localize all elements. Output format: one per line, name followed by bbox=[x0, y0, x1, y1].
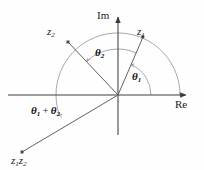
label-theta-sum: θ1 + θ2 bbox=[31, 105, 60, 116]
label-z2-sub: 2 bbox=[51, 31, 55, 39]
imaginary-axis-label: Im bbox=[97, 10, 109, 21]
figure-canvas bbox=[0, 0, 204, 170]
label-theta-sum-operator: + bbox=[40, 105, 51, 116]
label-theta-sum-base1: θ bbox=[31, 104, 37, 116]
label-theta-sum-sub1: 1 bbox=[37, 110, 41, 118]
label-theta2-base: θ bbox=[95, 46, 101, 58]
label-theta-sum-base2: θ bbox=[51, 104, 57, 116]
label-theta1-base: θ bbox=[132, 70, 138, 82]
label-z1-sub: 1 bbox=[141, 31, 145, 39]
axes-group bbox=[8, 17, 186, 135]
label-theta2: θ2 bbox=[95, 47, 104, 58]
label-theta1-sub: 1 bbox=[138, 76, 142, 84]
complex-plane-figure: Im Re z1 z2 z1z2 θ1 θ2 θ1 + θ2 bbox=[0, 0, 204, 170]
arc-arrowheads bbox=[59, 58, 134, 117]
label-theta1: θ1 bbox=[132, 71, 141, 82]
label-z2: z2 bbox=[47, 26, 55, 37]
label-theta-sum-sub2: 2 bbox=[57, 110, 61, 118]
marker-z2 bbox=[67, 41, 70, 44]
point-markers bbox=[21, 35, 145, 153]
ray-z1 bbox=[118, 37, 143, 95]
label-z1z2-sub1: 1 bbox=[15, 160, 19, 168]
label-z1z2: z1z2 bbox=[11, 155, 27, 166]
label-theta2-sub: 2 bbox=[101, 52, 105, 60]
label-z1z2-sub2: 2 bbox=[23, 160, 27, 168]
label-z1: z1 bbox=[137, 26, 145, 37]
real-axis-label: Re bbox=[175, 99, 187, 110]
